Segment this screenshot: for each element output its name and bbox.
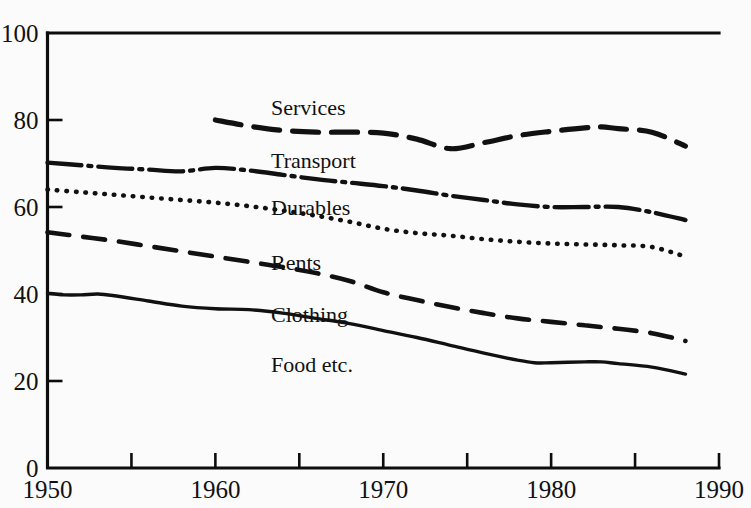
series-label-services: Services	[271, 95, 346, 120]
series-inline-labels: ServicesTransportDurablesRentsClothingFo…	[271, 95, 356, 377]
axis-spine	[48, 33, 720, 468]
chart-axes	[48, 33, 720, 468]
x-axis-tick-labels: 19501960197019801990	[23, 476, 745, 503]
y-tick-label: 100	[1, 20, 39, 47]
x-tick-label: 1970	[358, 476, 408, 503]
series-line-durables	[48, 190, 686, 257]
y-tick-label: 80	[14, 107, 39, 134]
series-line-rents	[48, 232, 686, 341]
y-tick-label: 40	[14, 281, 39, 308]
series-label-clothing: Clothing	[271, 302, 348, 327]
x-tick-label: 1980	[526, 476, 576, 503]
series-label-transport: Transport	[271, 148, 356, 173]
series-label-rents: Rents	[271, 250, 321, 275]
y-tick-label: 60	[14, 194, 39, 221]
series-label-durables: Durables	[271, 195, 350, 220]
x-axis-ticks	[131, 453, 719, 468]
y-axis-ticks	[48, 120, 63, 381]
y-axis-tick-labels: 020406080100	[1, 20, 39, 482]
chart-figure: 020406080100 19501960197019801990 Servic…	[0, 0, 751, 508]
series-line-services	[215, 120, 685, 149]
x-tick-label: 1990	[694, 476, 744, 503]
y-tick-label: 20	[14, 368, 39, 395]
chart-series	[48, 120, 686, 374]
x-tick-label: 1950	[23, 476, 73, 503]
line-chart: 020406080100 19501960197019801990 Servic…	[0, 0, 751, 508]
series-line-transport	[48, 163, 686, 220]
x-tick-label: 1960	[190, 476, 240, 503]
series-line-food-etc	[48, 293, 686, 374]
series-label-food-etc: Food etc.	[271, 352, 353, 377]
